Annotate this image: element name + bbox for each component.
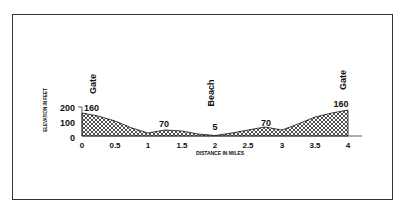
- y-tick-100: 100: [60, 118, 75, 128]
- value-label-5: 5: [212, 122, 217, 132]
- x-axis-title: DISTANCE IN MILES: [196, 150, 245, 156]
- place-label-gate-right: Gate: [338, 70, 348, 90]
- x-tick-3.5: 3.5: [309, 141, 321, 150]
- x-tick-1.5: 1.5: [176, 141, 188, 150]
- x-tick-1: 1: [146, 141, 151, 150]
- y-tick-200: 200: [60, 103, 75, 113]
- x-tick-2.5: 2.5: [242, 141, 254, 150]
- x-tick-0: 0: [80, 141, 85, 150]
- x-tick-2: 2: [213, 141, 218, 150]
- x-tick-4: 4: [346, 141, 351, 150]
- value-label-70-b: 70: [261, 118, 271, 128]
- place-label-gate-left: Gate: [88, 74, 98, 94]
- place-label-beach: Beach: [206, 79, 216, 106]
- y-tick-0: 0: [70, 133, 75, 143]
- value-label-160-right: 160: [333, 99, 348, 109]
- x-tick-3: 3: [280, 141, 285, 150]
- y-axis-title: ELEVATION IN FEET: [43, 88, 48, 132]
- value-label-160-left: 160: [84, 103, 99, 113]
- value-label-70-a: 70: [159, 119, 169, 129]
- x-tick-0.5: 0.5: [109, 141, 121, 150]
- elevation-chart: 200 100 0 0 0.5 1 1.5 2 2.5 3 3.5 4 DIST…: [0, 0, 402, 214]
